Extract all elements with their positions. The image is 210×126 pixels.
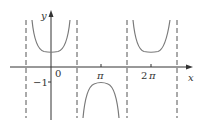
minus-one-label: −1 xyxy=(33,77,48,88)
x-axis-arrow-icon xyxy=(186,65,193,70)
sec-graph: y x 0 −1 π 2 π xyxy=(0,0,210,126)
x-axis-label: x xyxy=(188,72,194,83)
y-axis xyxy=(48,10,54,120)
y-axis-arrow-icon xyxy=(49,10,54,17)
sec-curves xyxy=(32,20,170,118)
origin-label: 0 xyxy=(55,68,61,79)
curve-branch-2 xyxy=(83,83,119,119)
asymptotes xyxy=(26,20,177,118)
x-axis xyxy=(10,64,193,70)
two-pi-label-sym: π xyxy=(148,70,156,81)
y-axis-label: y xyxy=(40,10,47,21)
two-pi-label-num: 2 xyxy=(141,70,147,81)
pi-label: π xyxy=(96,70,104,81)
curve-branch-3 xyxy=(133,20,170,52)
